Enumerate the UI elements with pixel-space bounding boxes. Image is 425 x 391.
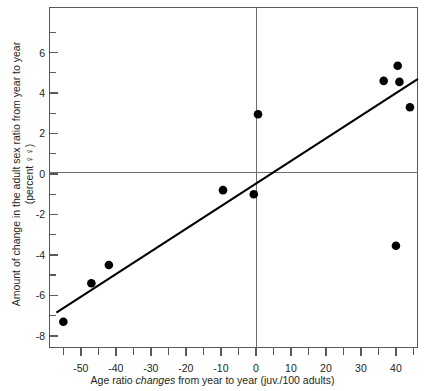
x-tick-label: -10: [213, 362, 228, 374]
x-tick-major: [185, 348, 186, 356]
y-tick-major: [49, 254, 58, 255]
y-tick-minor: [49, 234, 56, 235]
x-tick-major: [360, 348, 361, 356]
x-tick-minor: [133, 348, 134, 355]
x-axis-title-emphasis: changes: [136, 374, 176, 386]
x-tick-minor: [238, 348, 239, 355]
x-tick-label: -30: [143, 362, 158, 374]
y-tick-minor: [49, 72, 56, 73]
x-tick-label: -20: [178, 362, 193, 374]
y-tick-minor: [49, 32, 56, 33]
x-tick-label: 10: [285, 362, 297, 374]
zero-line-horizontal: [49, 172, 418, 173]
y-tick-major: [49, 52, 58, 53]
x-tick-minor: [203, 348, 204, 355]
x-tick-minor: [413, 348, 414, 355]
x-tick-major: [220, 348, 221, 356]
y-tick-minor: [49, 274, 56, 275]
y-tick-minor: [49, 113, 56, 114]
x-tick-minor: [63, 348, 64, 355]
x-tick-minor: [343, 348, 344, 355]
x-tick-minor: [98, 348, 99, 355]
y-axis-title: Amount of change in the adult sex ratio …: [10, 42, 36, 306]
x-tick-minor: [308, 348, 309, 355]
y-tick-major: [49, 133, 58, 134]
y-tick-minor: [49, 153, 56, 154]
x-tick-minor: [378, 348, 379, 355]
x-tick-major: [325, 348, 326, 356]
y-tick-minor: [49, 315, 56, 316]
zero-line-vertical: [256, 7, 257, 348]
x-axis-title-before: Age ratio: [91, 374, 136, 386]
x-tick-label: -40: [108, 362, 123, 374]
x-tick-label: 30: [355, 362, 367, 374]
y-tick-major: [49, 92, 58, 93]
y-axis-title-host: Amount of change in the adult sex ratio …: [0, 0, 46, 348]
plot-frame: [49, 7, 418, 348]
x-tick-major: [395, 348, 396, 356]
x-tick-major: [255, 348, 256, 356]
x-tick-label: 20: [320, 362, 332, 374]
y-tick-minor: [49, 194, 56, 195]
x-tick-major: [290, 348, 291, 356]
y-tick-major: [49, 173, 58, 174]
x-tick-label: -50: [73, 362, 88, 374]
y-tick-major: [49, 335, 58, 336]
x-tick-major: [80, 348, 81, 356]
x-axis-title: Age ratio changes from year to year (juv…: [0, 374, 425, 386]
x-tick-label: 40: [390, 362, 402, 374]
y-tick-major: [49, 295, 58, 296]
y-axis-title-line2: (percent ♀♀): [23, 42, 36, 306]
x-tick-minor: [273, 348, 274, 355]
x-tick-major: [150, 348, 151, 356]
x-tick-minor: [168, 348, 169, 355]
scatter-plot-figure: -8-6-4-20246 -50-40-30-20-10010203040 Am…: [0, 0, 425, 391]
x-tick-label: 0: [253, 362, 259, 374]
x-tick-major: [115, 348, 116, 356]
x-axis-title-after: from year to year (juv./100 adults): [175, 374, 334, 386]
y-tick-major: [49, 214, 58, 215]
y-axis-title-line1: Amount of change in the adult sex ratio …: [10, 42, 22, 306]
